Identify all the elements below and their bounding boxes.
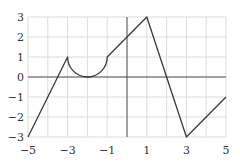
x-tick-label: −1 xyxy=(99,144,115,157)
x-tick-label: −3 xyxy=(59,144,75,157)
y-tick-label: −1 xyxy=(8,91,24,104)
function-graph: −5−3−1135 −3−2−10123 xyxy=(0,0,240,163)
y-tick-label: −2 xyxy=(8,111,24,124)
x-tick-label: 3 xyxy=(183,144,190,157)
x-tick-label: −5 xyxy=(20,144,36,157)
y-tick-label: −3 xyxy=(8,131,24,144)
x-tick-label: 1 xyxy=(143,144,150,157)
x-tick-labels: −5−3−1135 xyxy=(20,144,230,157)
x-tick-label: 5 xyxy=(223,144,230,157)
y-tick-label: 2 xyxy=(17,31,24,44)
y-tick-label: 1 xyxy=(17,51,24,64)
y-tick-label: 3 xyxy=(17,11,24,24)
y-tick-label: 0 xyxy=(17,71,24,84)
y-tick-labels: −3−2−10123 xyxy=(8,11,24,144)
